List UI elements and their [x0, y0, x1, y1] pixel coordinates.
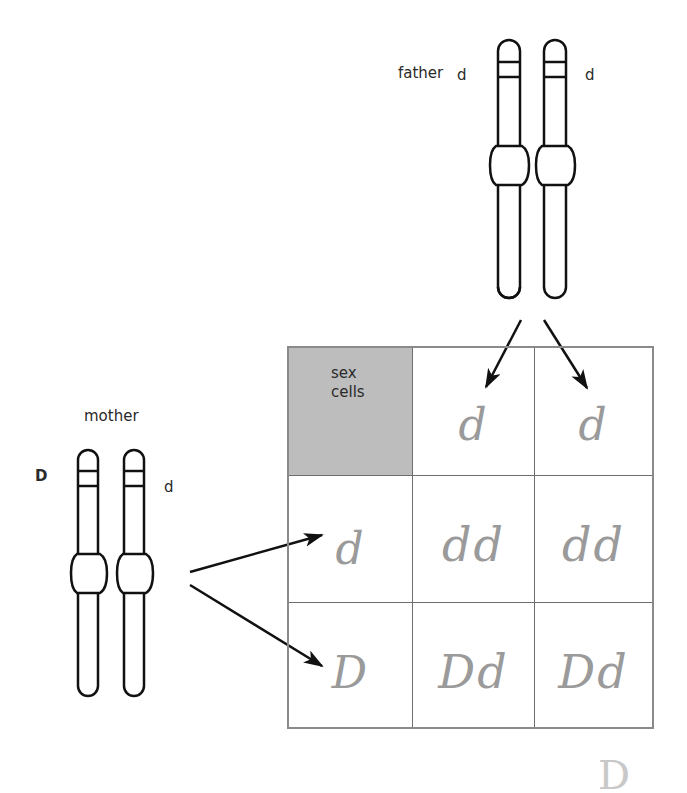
- punnett-corner-cell: sex cells: [289, 348, 413, 476]
- offspring-cell-2-2: Dd: [535, 603, 652, 727]
- corner-label-line2: cells: [331, 383, 365, 402]
- offspring-genotype-2-2: Dd: [558, 645, 628, 699]
- mother-allele-right: d: [164, 478, 174, 496]
- row-header-2-text: D: [332, 647, 369, 698]
- column-header-1-text: d: [458, 399, 488, 450]
- father-allele-left: d: [457, 66, 467, 84]
- row-header-2: D: [289, 603, 413, 727]
- mother-chromosome-1: [71, 450, 107, 696]
- father-label: father: [398, 64, 443, 82]
- father-chromosome-1: [490, 40, 529, 298]
- column-header-2: d: [535, 348, 652, 476]
- offspring-cell-2-1: Dd: [413, 603, 535, 727]
- offspring-genotype-1-2: dd: [562, 518, 625, 572]
- column-header-1: d: [413, 348, 535, 476]
- row-header-1-text: d: [335, 523, 365, 574]
- mother-chromosome-2: [117, 450, 153, 696]
- offspring-cell-1-1: dd: [413, 476, 535, 603]
- offspring-cell-1-2: dd: [535, 476, 652, 603]
- mother-label: mother: [84, 407, 139, 425]
- corner-label-line1: sex: [331, 364, 365, 383]
- father-allele-right: d: [585, 66, 595, 84]
- offspring-genotype-2-1: Dd: [438, 645, 508, 699]
- column-header-2-text: d: [578, 399, 608, 450]
- stray-handwritten-mark: D: [598, 752, 630, 793]
- punnett-square: sex cells d d d dd dd D Dd Dd: [287, 346, 654, 729]
- row-header-1: d: [289, 476, 413, 603]
- offspring-genotype-1-1: dd: [442, 518, 505, 572]
- mother-allele-left: D: [35, 467, 47, 485]
- father-chromosome-2: [536, 40, 575, 298]
- corner-label: sex cells: [331, 364, 365, 402]
